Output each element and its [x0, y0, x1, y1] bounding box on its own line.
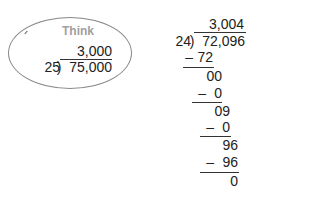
step-result: 09 — [208, 104, 230, 118]
step-result: 00 — [200, 69, 222, 83]
minus-sign: – — [183, 50, 193, 64]
step-subtract: 0 — [218, 120, 230, 134]
quotient: 3,004 — [190, 17, 244, 31]
minus-sign: – — [204, 120, 214, 134]
step-subtract: 0 — [210, 86, 222, 100]
dividend: 72,096 — [195, 34, 245, 48]
think-label: Think — [62, 24, 94, 38]
step-subtract: 96 — [215, 155, 238, 169]
minus-sign: – — [204, 155, 214, 169]
step-subtract: 72 — [193, 50, 213, 64]
think-dividend: 75,000 — [62, 60, 112, 74]
think-quotient: 3,000 — [70, 44, 112, 58]
step-result: 96 — [215, 138, 238, 152]
final-remainder: 0 — [225, 174, 238, 188]
minus-sign: – — [196, 86, 206, 100]
